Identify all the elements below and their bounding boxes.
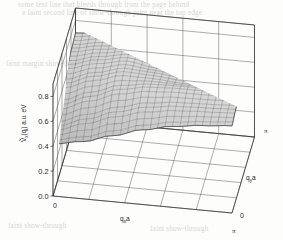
- z-axis-label: Ṽx(qi) a.u. eV: [19, 104, 29, 142]
- surface-mesh: [53, 23, 255, 143]
- y-axis-max-label: π: [232, 227, 236, 235]
- z-axis-tick-labels: 0.00.20.40.60.8: [38, 92, 48, 201]
- figure-container: some text line that bleeds through from …: [0, 0, 283, 240]
- z-axis-tick-0-4: 0.4: [38, 142, 48, 151]
- x-axis-origin-label: 0: [53, 202, 57, 209]
- z-axis-tick-0-6: 0.6: [38, 117, 48, 126]
- y-axis-origin-label: 0: [240, 212, 244, 219]
- x-axis-label: qxa: [120, 215, 130, 224]
- surface-plot: 0.00.20.40.60.8 0 π 0 π qxa qya Ṽx(qi) …: [0, 0, 283, 240]
- z-axis-tick-0-2: 0.2: [38, 167, 48, 176]
- z-axis-tick-0-8: 0.8: [38, 92, 48, 101]
- z-axis-tick-0-0: 0.0: [38, 192, 48, 201]
- x-axis-max-label: π: [264, 127, 268, 135]
- y-axis-label: qya: [246, 174, 256, 183]
